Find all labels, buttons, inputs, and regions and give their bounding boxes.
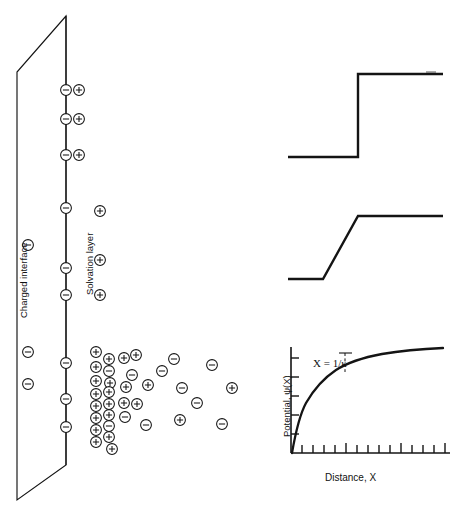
diffuse-ion-plus <box>104 387 115 398</box>
diffuse-ion-minus <box>104 421 115 432</box>
diffuse-ion-cloud <box>91 347 238 455</box>
diffuse-ion-minus <box>177 383 188 394</box>
ramp-potential-curve <box>288 216 443 279</box>
diffuse-ion-minus <box>192 398 203 409</box>
diffuse-ion-minus <box>127 370 138 381</box>
diffuse-ion-minus <box>207 360 218 371</box>
solvation-ion-minus <box>61 394 72 405</box>
diffuse-ion-minus <box>120 412 131 423</box>
diffuse-ion-plus <box>175 415 186 426</box>
charged-interface-label: Charged interface <box>18 242 29 318</box>
solvation-pair-group <box>61 85 85 161</box>
diffuse-ion-plus <box>95 290 106 301</box>
solvation-ion-minus <box>61 290 72 301</box>
diffuse-ion-plus <box>104 432 115 443</box>
solvation-layer-label: Solvation layer <box>84 233 95 295</box>
diffuse-ion-plus <box>91 401 102 412</box>
diffuse-ion-minus <box>169 354 180 365</box>
surface-charge-minus <box>23 347 34 358</box>
diffuse-ion-minus <box>217 419 228 430</box>
solvation-ion-minus <box>61 203 72 214</box>
diffuse-ion-plus <box>104 354 115 365</box>
diffuse-ion-minus <box>104 366 115 377</box>
solvation-ion-plus <box>74 114 85 125</box>
solvation-ion-plus <box>74 150 85 161</box>
diffuse-ion-plus <box>91 437 102 448</box>
diffuse-ion-plus <box>104 399 115 410</box>
diffuse-ion-plus <box>91 362 102 373</box>
solvation-ion-minus <box>61 358 72 369</box>
x-axis-label: Distance, X <box>325 472 376 483</box>
diffuse-ion-plus <box>119 398 130 409</box>
diffuse-ion-plus <box>121 382 132 393</box>
diffuse-ion-plus <box>91 376 102 387</box>
solvation-ion-minus <box>61 114 72 125</box>
diffuse-ion-minus <box>157 366 168 377</box>
diffuse-ion-plus <box>95 206 106 217</box>
diffuse-ion-plus <box>95 255 106 266</box>
diffuse-ion-plus <box>131 350 142 361</box>
diffuse-ion-minus <box>141 420 152 431</box>
step-potential-curve <box>288 74 443 157</box>
diffuse-ion-plus <box>107 444 118 455</box>
diffuse-ion-plus <box>91 347 102 358</box>
solvation-ion-minus <box>61 150 72 161</box>
solvation-ion-plus <box>74 85 85 96</box>
diffuse-ion-plus <box>132 399 143 410</box>
diffuse-ion-plus <box>91 425 102 436</box>
diffuse-ion-plus <box>143 380 154 391</box>
sparse-ion-group <box>95 206 106 301</box>
kappa-annotation: X = 1/κ <box>313 357 347 369</box>
surface-charge-minus <box>23 379 34 390</box>
diffuse-ion-plus <box>91 413 102 424</box>
diffuse-ion-plus <box>104 410 115 421</box>
diffuse-ion-plus <box>227 383 238 394</box>
y-axis-label: Potential, ψ(X) <box>281 375 292 437</box>
solvation-ion-minus <box>61 422 72 433</box>
solvation-ion-minus <box>61 85 72 96</box>
solvation-ion-minus <box>61 263 72 274</box>
diffuse-ion-plus <box>119 353 130 364</box>
x-axis-ticks <box>302 443 445 453</box>
double-layer-figure <box>0 0 457 511</box>
diffuse-ion-plus <box>91 389 102 400</box>
